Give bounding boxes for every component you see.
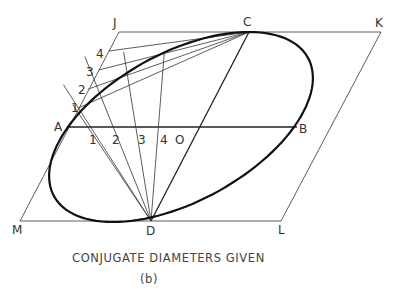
label-d: D	[146, 224, 155, 238]
label-aj-3: 3	[86, 65, 94, 79]
ellipse-construction-diagram: J C K A O B M D L 1 2 3 4 1 2 3 4 CONJUG…	[0, 0, 393, 296]
label-ao-4: 4	[160, 133, 168, 147]
label-m: M	[12, 223, 22, 237]
label-o: O	[175, 133, 184, 147]
label-c: C	[243, 15, 251, 29]
label-l: L	[278, 223, 285, 237]
ray-c-3	[99, 32, 249, 70]
rays-from-c	[78, 32, 249, 108]
label-ao-3: 3	[138, 133, 146, 147]
label-aj-1: 1	[71, 101, 79, 115]
figure-caption: CONJUGATE DIAMETERS GIVEN	[72, 251, 265, 265]
label-j: J	[112, 16, 117, 30]
ray-c-2	[88, 32, 249, 89]
label-k: K	[375, 16, 384, 30]
label-ao-2: 2	[112, 133, 120, 147]
label-b: B	[299, 122, 307, 136]
label-ao-1: 1	[89, 133, 97, 147]
label-aj-4: 4	[96, 47, 104, 61]
figure-sublabel: (b)	[140, 272, 158, 286]
ray-d-0	[73, 105, 151, 221]
label-a: A	[54, 120, 63, 134]
label-aj-2: 2	[78, 83, 86, 97]
